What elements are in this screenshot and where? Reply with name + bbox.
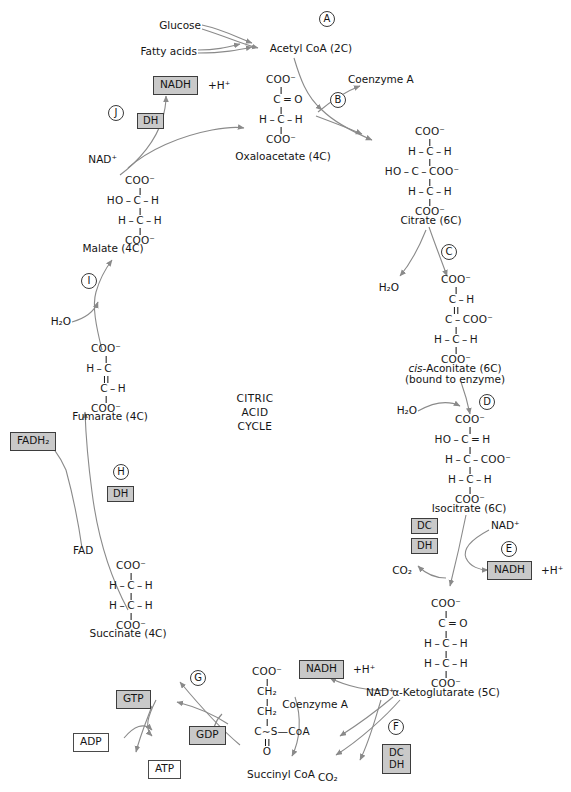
dc-tag-e[interactable]: DC xyxy=(411,518,438,534)
cis-aconitate-row-0: COO⁻ xyxy=(419,274,493,287)
succinyl-coa-label: Succinyl CoA xyxy=(247,768,315,780)
step-circle-f[interactable]: F xyxy=(388,719,404,735)
acetyl-coa-label: Acetyl CoA (2C) xyxy=(270,42,352,54)
arrow-fattyacids-to-acetylcoa-2 xyxy=(198,47,252,53)
plus-h-e-label: +H⁺ xyxy=(541,564,563,576)
step-circle-g[interactable]: G xyxy=(190,670,206,686)
nad-label-f: NAD⁺ xyxy=(366,686,395,698)
fad-label: FAD xyxy=(73,544,93,556)
succoa-row-3: C∼S—CoA xyxy=(224,726,310,739)
succinate-label: Succinate (4C) xyxy=(90,627,167,639)
alpha-ketoglutarate-structure: COO⁻ C = O H – C – H H – C – H COO⁻ xyxy=(424,598,468,691)
citrate-structure: COO⁻ H – C – H HO – C – COO⁻ H – C – H C… xyxy=(401,126,459,219)
citrate-row-3: H – C – H xyxy=(401,186,459,199)
co2-label-f: CO₂ xyxy=(318,771,338,783)
isocitrate-row-1: HO – C = H xyxy=(429,434,511,447)
gdp-box[interactable]: GDP xyxy=(189,726,226,745)
water-label-d: H₂O xyxy=(397,404,417,416)
succinate-row-2: H – C – H xyxy=(109,600,153,613)
arrow-isocitrate-to-ketoglutarate xyxy=(450,515,466,586)
arrow-nad-to-nadh-j xyxy=(120,96,166,175)
dc-dh-tag-f[interactable]: DC DH xyxy=(382,744,411,774)
nadh-box-e[interactable]: NADH xyxy=(487,561,532,580)
gtp-box[interactable]: GTP xyxy=(116,690,151,709)
step-circle-d[interactable]: D xyxy=(479,394,495,410)
dh-tag-e[interactable]: DH xyxy=(411,538,438,554)
step-circle-h[interactable]: H xyxy=(113,464,129,480)
dh-tag-f-line: DH xyxy=(389,759,404,771)
dh-tag-h[interactable]: DH xyxy=(107,486,134,502)
fumarate-label: Fumarate (4C) xyxy=(72,410,148,422)
dh-tag-j[interactable]: DH xyxy=(137,113,164,129)
cis-aconitate-row-3: H – C – H xyxy=(419,334,493,347)
step-circle-j[interactable]: J xyxy=(108,105,124,121)
succoa-row-0: COO⁻ xyxy=(224,666,310,679)
cycle-title-line-0: CITRIC xyxy=(237,391,274,405)
isocitrate-row-2: H – C – COO⁻ xyxy=(429,454,511,467)
isocitrate-structure: COO⁻ HO – C = H H – C – COO⁻ H – C – H C… xyxy=(429,414,511,507)
arrow-nad-to-nadh-e xyxy=(465,530,489,570)
arrow-c-releases-water xyxy=(400,230,426,276)
akg-row-0: COO⁻ xyxy=(424,598,468,611)
succinate-row-1: H – C – H xyxy=(109,580,153,593)
fumarate-structure: COO⁻ H – C C – H COO⁻ xyxy=(86,343,126,416)
arrow-malate-to-oxaloacetate xyxy=(128,127,244,168)
nad-label-e: NAD⁺ xyxy=(491,519,520,531)
arrow-f-releases-co2 xyxy=(360,700,381,760)
citric-acid-cycle-diagram: Glucose Fatty acids A Acetyl CoA (2C) NA… xyxy=(0,0,571,792)
step-circle-c[interactable]: C xyxy=(441,244,457,260)
water-label-i: H₂O xyxy=(51,315,71,327)
arrow-cisaconitate-to-isocitrate xyxy=(461,382,470,414)
nad-label-j: NAD⁺ xyxy=(88,153,117,165)
co2-label-e: CO₂ xyxy=(392,564,412,576)
arrow-oxaloacetate-to-citrate xyxy=(316,116,362,134)
step-circle-b[interactable]: B xyxy=(330,92,346,108)
isocitrate-row-0: COO⁻ xyxy=(429,414,511,427)
step-circle-e[interactable]: E xyxy=(501,541,517,557)
oxaloacetate-structure: COO⁻ C = O H – C – H COO⁻ xyxy=(259,74,303,147)
oxaloacetate-label: Oxaloacetate (4C) xyxy=(235,150,331,162)
nadh-box-j[interactable]: NADH xyxy=(153,76,198,95)
isocitrate-label: Isocitrate (6C) xyxy=(432,502,507,514)
cis-aconitate-structure: COO⁻ C – H C – COO⁻ H – C – H COO⁻ xyxy=(419,274,493,367)
arrow-fumarate-to-malate xyxy=(94,260,112,350)
step-circle-a[interactable]: A xyxy=(319,11,335,27)
citrate-row-0: COO⁻ xyxy=(401,126,459,139)
cis-aconitate-note: (bound to enzyme) xyxy=(405,373,505,385)
cycle-title-line-1: ACID xyxy=(237,405,274,419)
citrate-label: Citrate (6C) xyxy=(400,214,461,226)
malate-row-1: HO – C – H xyxy=(118,195,162,208)
coenzyme-a-label-b: Coenzyme A xyxy=(348,73,414,85)
step-circle-i[interactable]: I xyxy=(81,273,97,289)
cycle-title: CITRIC ACID CYCLE xyxy=(237,391,274,434)
arrow-water-into-i xyxy=(72,302,98,322)
fadh2-box[interactable]: FADH₂ xyxy=(10,432,56,451)
isocitrate-row-3: H – C – H xyxy=(429,474,511,487)
alpha-ketoglutarate-label: α-Ketoglutarate (5C) xyxy=(392,686,500,698)
citrate-row-2: HO – C – COO⁻ xyxy=(401,166,459,179)
succoa-row-2: CH₂ xyxy=(224,706,310,719)
plus-h-f-label: +H⁺ xyxy=(353,663,375,675)
glucose-label: Glucose xyxy=(159,19,201,31)
akg-row-3: H – C – H xyxy=(424,658,468,671)
arrow-fad-to-fadh2 xyxy=(42,438,82,548)
akg-row-1: C = O xyxy=(424,618,468,631)
fatty-acids-label: Fatty acids xyxy=(140,45,197,57)
succinate-row-0: COO⁻ xyxy=(109,560,153,573)
arrow-water-into-d xyxy=(418,403,460,411)
oxaloacetate-row-0: COO⁻ xyxy=(259,74,303,87)
arrow-e-releases-co2 xyxy=(418,566,446,578)
succinate-structure: COO⁻ H – C – H H – C – H COO⁻ xyxy=(109,560,153,633)
arrow-adp-branch xyxy=(124,726,152,738)
succinyl-coa-structure: COO⁻ CH₂ CH₂ C∼S—CoA O xyxy=(224,666,310,759)
malate-row-0: COO⁻ xyxy=(118,175,162,188)
arrow-fattyacids-to-acetylcoa xyxy=(198,44,240,50)
fumarate-row-1: H – C xyxy=(86,363,126,376)
arrow-b-to-citrate xyxy=(322,110,372,140)
cis-aconitate-row-1: C – H xyxy=(419,294,493,307)
water-label-c: H₂O xyxy=(379,281,399,293)
adp-box[interactable]: ADP xyxy=(73,733,109,752)
arrow-g-to-gtp xyxy=(177,702,228,724)
malate-structure: COO⁻ HO – C – H H – C – H COO⁻ xyxy=(118,175,162,248)
atp-box[interactable]: ATP xyxy=(148,760,181,779)
